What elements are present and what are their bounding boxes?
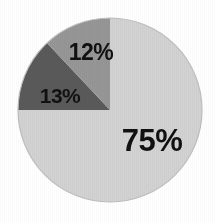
pie-label-12: 12% <box>69 39 114 65</box>
pie-label-13: 13% <box>40 84 81 107</box>
pie-chart-figure: 75% 13% 12% <box>0 0 215 222</box>
pie-label-75: 75% <box>122 123 183 158</box>
pie-chart-canvas: 75% 13% 12% <box>0 0 215 222</box>
